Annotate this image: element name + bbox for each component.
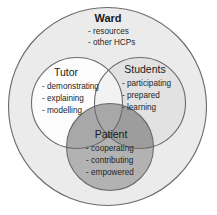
patient-item-0: - cooperating [86, 144, 134, 153]
ward-item-1: - other HCPs [88, 38, 135, 47]
students-item-0: - participating [122, 79, 172, 88]
patient-label: Patient [95, 128, 128, 140]
tutor-label: Tutor [54, 66, 79, 78]
venn-diagram: Ward - resources - other HCPs Tutor - de… [0, 0, 217, 215]
ward-label: Ward [94, 12, 121, 24]
tutor-item-1: - explaining [42, 94, 84, 103]
students-label: Students [124, 63, 165, 75]
ward-item-0: - resources [88, 27, 129, 36]
tutor-item-2: - modelling [42, 106, 82, 115]
patient-item-2: - empowered [86, 168, 134, 177]
students-item-1: - prepared [122, 91, 160, 100]
students-item-2: - learning [122, 103, 157, 112]
patient-item-1: - contributing [86, 156, 134, 165]
tutor-item-0: - demonstrating [42, 82, 99, 91]
venn-diagram-canvas: Ward - resources - other HCPs Tutor - de… [0, 0, 217, 215]
